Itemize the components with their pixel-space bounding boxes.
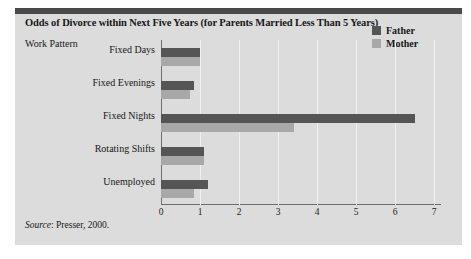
y-axis-title: Work Pattern — [25, 38, 85, 50]
bar-group: Rotating Shifts — [161, 139, 434, 172]
legend-swatch-father-icon — [372, 26, 381, 35]
bar-mother — [161, 189, 194, 198]
category-label: Unemployed — [103, 176, 155, 187]
bar-mother — [161, 156, 204, 165]
figure-top-rule — [15, 8, 462, 14]
source-note: Source: Presser, 2000. — [25, 220, 109, 230]
bar-father — [161, 48, 200, 57]
bar-father — [161, 114, 415, 123]
x-tick-label: 3 — [276, 207, 281, 217]
category-label: Fixed Days — [109, 44, 155, 55]
source-word: Source — [25, 220, 51, 230]
x-tick-label: 1 — [198, 207, 203, 217]
legend-item-father: Father — [372, 25, 418, 36]
bar-father — [161, 180, 208, 189]
bar-mother — [161, 57, 200, 66]
legend-label-father: Father — [386, 25, 415, 36]
bar-mother — [161, 90, 190, 99]
x-tick-label: 7 — [432, 207, 437, 217]
gridline — [434, 40, 435, 205]
chart-figure: Odds of Divorce within Next Five Years (… — [15, 8, 462, 245]
x-tick-label: 0 — [159, 207, 164, 217]
bar-mother — [161, 123, 294, 132]
category-label: Rotating Shifts — [95, 143, 155, 154]
bar-group: Fixed Nights — [161, 106, 434, 139]
bar-group: Fixed Evenings — [161, 73, 434, 106]
plot-area: Fixed DaysFixed EveningsFixed NightsRota… — [161, 40, 434, 205]
x-tick-label: 2 — [237, 207, 242, 217]
bar-group: Fixed Days — [161, 40, 434, 73]
source-citation: : Presser, 2000. — [51, 220, 109, 230]
x-tick-label: 4 — [315, 207, 320, 217]
category-label: Fixed Evenings — [93, 77, 156, 88]
bar-father — [161, 81, 194, 90]
x-tick-label: 6 — [393, 207, 398, 217]
bar-group: Unemployed — [161, 172, 434, 205]
category-label: Fixed Nights — [103, 110, 155, 121]
bar-father — [161, 147, 204, 156]
x-tick-label: 5 — [354, 207, 359, 217]
